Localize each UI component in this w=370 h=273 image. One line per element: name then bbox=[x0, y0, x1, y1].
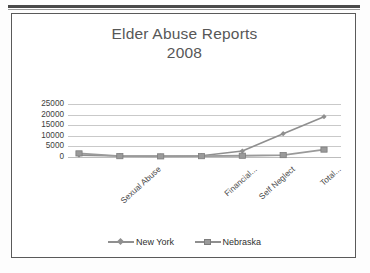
new-york-point bbox=[321, 114, 326, 119]
new-york-line bbox=[79, 117, 324, 156]
nebraska-point bbox=[280, 152, 286, 157]
legend-item-nebraska[interactable]: Nebraska bbox=[195, 236, 262, 247]
square-marker-icon bbox=[204, 239, 211, 245]
series-new-york bbox=[76, 114, 326, 159]
legend-label-new-york: New York bbox=[136, 237, 174, 247]
nebraska-markers bbox=[76, 147, 327, 159]
x-axis-category-labels: Sexual Abuse Financial... Self Neglect T… bbox=[68, 160, 348, 220]
legend-key-diamond-icon bbox=[108, 237, 134, 246]
legend-key-square-icon bbox=[195, 237, 221, 246]
chart-title-line2: 2008 bbox=[12, 43, 357, 62]
y-tick-0: 0 bbox=[22, 153, 64, 161]
legend-item-new-york[interactable]: New York bbox=[108, 236, 174, 247]
chart-container: Elder Abuse Reports 2008 25000 20000 150… bbox=[11, 13, 356, 258]
plot-area: Elder Abuse Reports 2008 25000 20000 150… bbox=[12, 14, 357, 259]
new-york-markers bbox=[76, 114, 326, 159]
y-tick-10000: 10000 bbox=[22, 132, 64, 140]
page-separator-rule-thin bbox=[8, 9, 360, 10]
chart-legend: New York Nebraska bbox=[12, 236, 357, 247]
y-tick-25000: 25000 bbox=[22, 100, 64, 108]
nebraska-point bbox=[76, 151, 82, 156]
y-axis-tick-labels: 25000 20000 15000 10000 5000 0 bbox=[22, 100, 64, 160]
x-label-sexual-abuse-text: Sexual Abuse bbox=[118, 164, 162, 205]
series-nebraska bbox=[76, 147, 327, 159]
new-york-point bbox=[281, 131, 286, 136]
y-tick-20000: 20000 bbox=[22, 111, 64, 119]
nebraska-point bbox=[117, 154, 123, 159]
nebraska-point bbox=[239, 153, 245, 158]
diamond-marker-icon bbox=[117, 238, 124, 245]
y-tick-5000: 5000 bbox=[22, 142, 64, 150]
chart-title-line1: Elder Abuse Reports bbox=[112, 25, 258, 42]
nebraska-point bbox=[198, 154, 204, 159]
x-label-financial-text: Financial... bbox=[222, 164, 259, 198]
x-label-total-text: Total... bbox=[318, 164, 343, 188]
x-label-self-neglect-text: Self Neglect bbox=[257, 164, 297, 201]
page-separator-rule bbox=[8, 5, 360, 8]
page-canvas: Elder Abuse Reports 2008 25000 20000 150… bbox=[0, 0, 370, 273]
series-plot bbox=[68, 104, 341, 160]
legend-label-nebraska: Nebraska bbox=[223, 237, 262, 247]
y-tick-15000: 15000 bbox=[22, 121, 64, 129]
chart-title: Elder Abuse Reports 2008 bbox=[12, 24, 357, 62]
